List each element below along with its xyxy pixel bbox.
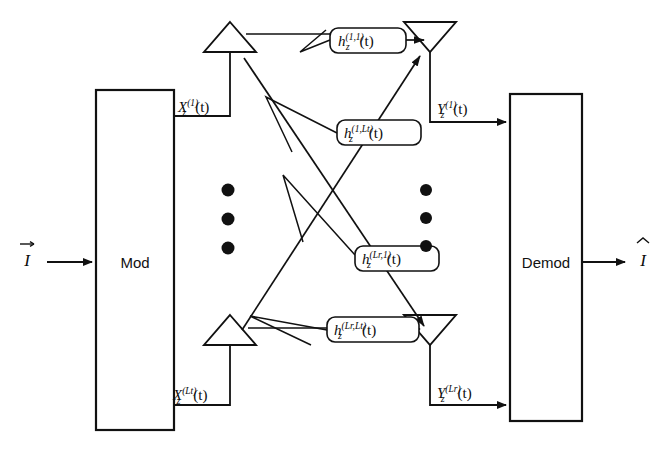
- chlr1-arg: (t): [387, 251, 401, 268]
- channel-label-1-1: h(1,1)z(t): [330, 28, 406, 53]
- ch11-sub: z: [345, 41, 350, 52]
- modulator-label: Mod: [120, 254, 149, 271]
- callout-leader-lr-lt: [250, 316, 327, 345]
- tx1-arg: (t): [195, 99, 209, 116]
- right-dot-2: [420, 212, 432, 224]
- modulator-block: Mod: [96, 90, 174, 430]
- rx1-sub: z: [439, 109, 444, 120]
- mimo-block-diagram: Mod Demod I I: [0, 0, 668, 451]
- ch11-arg: (t): [360, 33, 374, 50]
- output-arrow-group: I: [582, 238, 649, 270]
- chlrlt-sub: z: [337, 330, 342, 341]
- txlt-sub: z: [175, 395, 180, 406]
- input-vector-label: I: [20, 242, 34, 270]
- output-vector-label: I: [637, 238, 649, 270]
- callout-leader-lr-1: [283, 175, 355, 255]
- figure-canvas: Mod Demod I I: [0, 0, 668, 451]
- ch1lt-sub: z: [348, 133, 353, 144]
- demodulator-label: Demod: [522, 254, 570, 271]
- right-dot-3: [420, 240, 432, 252]
- rx-signal-label-1: Y(1)z(t): [437, 100, 468, 120]
- callout-leaders: [250, 30, 355, 345]
- tx-antenna-1-icon: [204, 22, 256, 52]
- output-hat-icon: [637, 238, 649, 243]
- channel-path-1-lt: [242, 56, 420, 330]
- channel-label-boxes: h(1,1)z(t) h(1,Lt)z(t) h(Lr,1)z(t): [327, 28, 439, 342]
- input-arrow-group: I: [20, 242, 92, 270]
- right-dot-1: [420, 184, 432, 196]
- input-symbol: I: [23, 251, 31, 270]
- tx-signal-label-1: X(1)z(t): [177, 98, 209, 118]
- chlrlt-arg: (t): [362, 322, 376, 339]
- ellipsis-dots-left: [222, 184, 235, 255]
- receive-signal-labels: Y(1)z(t) Y(Lr)z(t): [437, 100, 472, 404]
- ch11-base: h: [338, 33, 346, 49]
- left-dot-2: [222, 213, 235, 226]
- txlt-arg: (t): [193, 387, 207, 404]
- tx1-sub: z: [181, 107, 186, 118]
- rx1-arg: (t): [453, 101, 467, 118]
- output-symbol: I: [639, 251, 647, 270]
- tx-signal-label-lt: X(Lt)z(t): [172, 386, 208, 406]
- ellipsis-dots-right: [420, 184, 432, 252]
- rxlr-arg: (t): [458, 385, 472, 402]
- left-dot-1: [222, 184, 235, 197]
- demodulator-block: Demod: [510, 94, 582, 421]
- left-dot-3: [222, 242, 235, 255]
- ch1lt-arg: (t): [369, 125, 383, 142]
- transmit-signal-labels: X(1)z(t) X(Lt)z(t): [172, 98, 209, 406]
- channel-paths: [242, 34, 424, 330]
- rx-signal-label-lr: Y(Lr)z(t): [437, 384, 472, 404]
- rx-antenna-1-icon: [404, 22, 456, 52]
- channel-label-1-lt: h(1,Lt)z(t): [337, 120, 421, 145]
- chlr1-sub: z: [366, 259, 371, 270]
- rxlr-sub: z: [440, 393, 445, 404]
- channel-label-lr-lt: h(Lr,Lt)z(t): [327, 317, 419, 342]
